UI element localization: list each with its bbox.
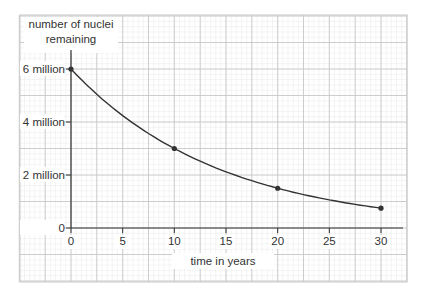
x-tick-label: 5 xyxy=(119,235,125,247)
y-axis-title-line2: remaining xyxy=(46,33,97,45)
x-tick-label: 30 xyxy=(375,235,388,247)
data-point xyxy=(275,186,280,191)
data-point xyxy=(68,66,73,71)
data-point xyxy=(172,146,177,151)
y-tick-label: 4 million xyxy=(23,116,65,128)
x-tick-label: 10 xyxy=(168,235,181,247)
data-point xyxy=(378,206,383,211)
x-tick-label: 0 xyxy=(68,235,74,247)
x-tick-label: 15 xyxy=(220,235,233,247)
x-tick-label: 20 xyxy=(271,235,284,247)
y-tick-label: 6 million xyxy=(23,63,65,75)
x-axis-title: time in years xyxy=(190,255,255,267)
y-tick-label: 0 xyxy=(59,222,65,234)
x-tick-label: 25 xyxy=(323,235,336,247)
y-axis-title-line1: number of nuclei xyxy=(28,18,113,30)
decay-chart: number of nuclei remaining 02 million4 m… xyxy=(0,0,431,298)
y-tick-label: 2 million xyxy=(23,169,65,181)
